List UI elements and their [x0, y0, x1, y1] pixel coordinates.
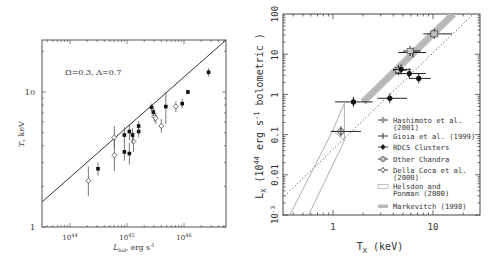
legend-item: Della Ceca et al.(2000) — [378, 166, 467, 183]
left-data-point — [123, 127, 127, 144]
legend-label: Markevitch (1998) — [393, 202, 467, 211]
left-data-point — [186, 90, 190, 95]
figure-svg: Ω=0.3, Λ=0.7 10 1 1044 1045 1046 Lbol, e… — [0, 0, 498, 268]
left-data-point — [164, 92, 168, 124]
cosmology-annotation: Ω=0.3, Λ=0.7 — [65, 68, 121, 77]
legend-item: Hashimoto et al.(2001) — [378, 116, 462, 133]
legend-label: Other Chandra — [393, 155, 449, 164]
left-data-point — [112, 139, 117, 171]
left-data-points — [86, 68, 211, 196]
right-data-point — [409, 73, 430, 83]
svg-text:0.01: 0.01 — [270, 164, 280, 186]
left-chart: Ω=0.3, Λ=0.7 10 1 1044 1045 1046 Lbol, e… — [17, 40, 226, 253]
svg-text:1045: 1045 — [119, 232, 134, 242]
left-ylabel: T, keV — [17, 121, 26, 147]
right-xtick-labels: 1 10 — [330, 222, 438, 232]
legend-item: RDCS Clusters — [378, 143, 449, 152]
svg-text:10: 10 — [428, 222, 439, 232]
figure: Ω=0.3, Λ=0.7 10 1 1044 1045 1046 Lbol, e… — [0, 0, 498, 268]
left-data-point — [207, 68, 211, 76]
right-axis-ticks — [283, 14, 480, 215]
right-chart: Hashimoto et al.(2001)Gioia et al. (1999… — [253, 6, 481, 255]
right-data-point — [331, 126, 361, 136]
left-xlabel: Lbol, erg s-1 — [112, 242, 155, 253]
svg-text:1044: 1044 — [62, 232, 77, 242]
legend-label: RDCS Clusters — [393, 143, 449, 152]
svg-text:10: 10 — [270, 50, 280, 61]
svg-text:10-3: 10-3 — [269, 206, 280, 224]
right-legend: Hashimoto et al.(2001)Gioia et al. (1999… — [378, 116, 475, 211]
right-ytick-labels: 100 10 1 0.1 0.01 10-3 — [269, 6, 280, 224]
legend-label: Gioia et al. (1999) — [393, 132, 475, 141]
left-data-point — [96, 163, 100, 176]
right-data-point — [378, 93, 407, 103]
legend-label-line2: Ponman (2000) — [393, 189, 449, 198]
legend-item: Markevitch (1998) — [378, 202, 467, 211]
legend-item: Gioia et al. (1999) — [378, 132, 475, 141]
right-xlabel: TX (keV) — [357, 241, 403, 255]
svg-text:100: 100 — [270, 6, 280, 22]
right-plot-frame — [283, 14, 480, 215]
svg-text:1: 1 — [330, 222, 335, 232]
right-model-lines — [285, 7, 481, 215]
left-data-point — [159, 119, 164, 133]
right-ylabel: LX (1044 erg s-1 bolometric ) — [253, 33, 268, 199]
legend-item: Helsdon andPonman (2000) — [378, 182, 449, 199]
svg-text:1: 1 — [270, 92, 280, 97]
left-data-point — [180, 99, 184, 108]
helsdon-ponman-region — [290, 103, 345, 215]
left-data-point — [86, 167, 91, 196]
left-fit-line — [42, 40, 226, 202]
left-data-point — [173, 102, 178, 113]
left-ytick-1: 1 — [30, 223, 35, 232]
left-data-point — [128, 143, 132, 165]
left-xtick-labels: 1044 1045 1046 — [62, 232, 191, 242]
legend-item: Other Chandra — [378, 155, 449, 164]
svg-text:0.1: 0.1 — [270, 127, 280, 143]
left-ytick-10: 10 — [25, 88, 35, 97]
left-data-point — [123, 144, 127, 160]
svg-text:1046: 1046 — [176, 232, 191, 242]
